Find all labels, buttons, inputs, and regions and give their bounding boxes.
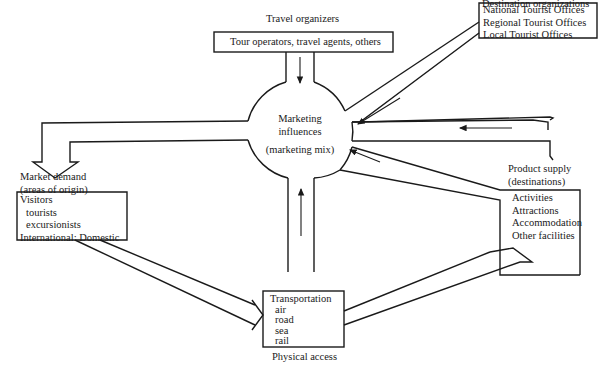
destination-item: Local Tourist Offices <box>483 29 586 42</box>
supply-item: Attractions <box>512 205 582 218</box>
market-item: International: Domestic <box>20 232 119 245</box>
tourism-marketing-diagram: Travel organizers Tour operators, travel… <box>0 0 608 375</box>
center-line1: Marketing <box>262 113 338 126</box>
circle-arc-right <box>352 122 353 141</box>
market-demand-heading: Market demand (areas of origin) <box>20 171 88 196</box>
transport-item: road <box>270 315 331 326</box>
destination-item: National Tourist Offices <box>483 4 586 17</box>
market-item: Visitors <box>20 194 119 207</box>
transportation-list: Transportation air road sea rail <box>270 294 331 347</box>
center-line3: (marketing mix) <box>262 144 338 157</box>
physical-access-heading: Physical access <box>272 351 337 364</box>
circle-arc-bottom-right <box>314 170 340 178</box>
product-supply-title: Product supply <box>508 163 571 176</box>
supply-item: Activities <box>512 192 582 205</box>
transport-item: Transportation <box>270 294 331 305</box>
supply-item: Other facilities <box>512 230 582 243</box>
product-supply-heading: Product supply (destinations) <box>508 163 571 188</box>
center-line2: influences <box>262 126 338 139</box>
circle-arc-top-right <box>314 82 345 111</box>
travel-organizers-box-text: Tour operators, travel agents, others <box>230 36 381 49</box>
product-supply-subtitle: (destinations) <box>508 176 571 189</box>
supply-item: Accommodation <box>512 217 582 230</box>
center-node: Marketing influences (marketing mix) <box>262 113 338 157</box>
destination-organizations-list: National Tourist Offices Regional Touris… <box>483 4 586 42</box>
market-item: tourists <box>20 207 119 220</box>
market-item: excursionists <box>20 219 119 232</box>
market-demand-title: Market demand <box>20 171 88 184</box>
product-supply-list: Activities Attractions Accommodation Oth… <box>512 192 582 242</box>
market-demand-list: Visitors tourists excursionists Internat… <box>20 194 119 244</box>
destination-item: Regional Tourist Offices <box>483 17 586 30</box>
travel-organizers-heading: Travel organizers <box>266 13 339 26</box>
transport-item: rail <box>270 336 331 347</box>
